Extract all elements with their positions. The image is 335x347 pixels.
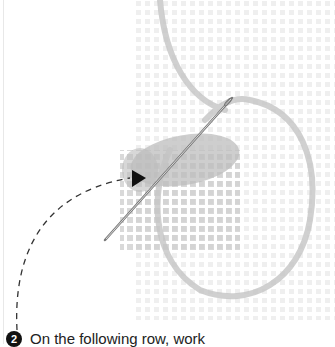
step-caption: 2 On the following row, work [20,330,205,347]
step-number-badge: 2 [6,331,22,347]
step-text: On the following row, work [30,330,205,347]
dashed-path [17,178,130,330]
